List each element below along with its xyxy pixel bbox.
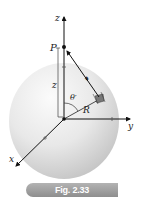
separation-label: 𝓻 <box>84 72 89 82</box>
point-p <box>62 45 66 49</box>
x-axis-label: x <box>9 154 14 164</box>
z-axis-label: z <box>54 13 60 23</box>
theta-label: θ′ <box>70 93 77 102</box>
point-p-label: P <box>49 42 57 53</box>
y-axis-label: y <box>127 121 134 131</box>
sphere-diagram: z P z y x R θ′ 𝓻 <box>0 0 145 206</box>
radius-label: R <box>82 105 90 115</box>
z-prime-label: z <box>51 80 57 90</box>
figure-caption: Fig. 2.33 <box>26 183 118 197</box>
origin-point <box>62 117 66 121</box>
